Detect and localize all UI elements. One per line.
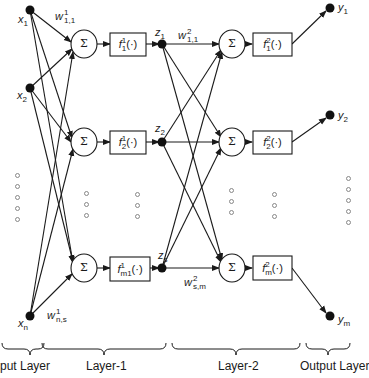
- activation-label-l1-2: f12(·): [110, 135, 146, 151]
- input-label-n: xn: [18, 318, 28, 330]
- hidden-label-1: z1: [155, 27, 165, 39]
- output-label-1: y1: [338, 2, 348, 14]
- layer1-connections: [30, 10, 73, 316]
- hidden-label-2: z2: [155, 123, 165, 135]
- activation-label-l2-2: f22(·): [253, 135, 292, 151]
- layer1-activation-ellipsis: [135, 192, 140, 225]
- sigma-l1-2: Σ: [74, 135, 94, 148]
- output-ellipsis: [346, 176, 351, 231]
- hidden-label-s: zs: [158, 250, 168, 262]
- sigma-l1-s: Σ: [74, 261, 94, 274]
- weight-label-l2-first: w21,1: [178, 28, 198, 44]
- activation-label-l1-1: f11(·): [110, 37, 146, 53]
- weight-label-l2-last: w2s,m: [184, 275, 206, 291]
- layer-label-output: Output Layer: [300, 359, 369, 373]
- output-node-2: [326, 111, 335, 120]
- layer2-connections: [162, 44, 222, 268]
- hidden-node-2: [158, 138, 167, 147]
- sigma-l2-m: Σ: [222, 261, 242, 274]
- input-ellipsis: [15, 173, 20, 228]
- sigma-l2-2: Σ: [222, 135, 242, 148]
- activation-label-l2-m: f2m(·): [253, 261, 292, 277]
- output-label-2: y2: [338, 110, 348, 122]
- sigma-l1-1: Σ: [74, 37, 94, 50]
- layer1-sum-ellipsis: [84, 191, 89, 224]
- output-label-m: ym: [338, 314, 350, 326]
- input-label-1: x1: [18, 14, 28, 26]
- layer2-activation-ellipsis: [272, 192, 277, 225]
- output-node-m: [326, 312, 335, 321]
- output-node-1: [326, 4, 335, 13]
- layer-braces: [2, 343, 350, 355]
- activation-label-l1-m1: f1m1(·): [110, 262, 150, 278]
- layer-label-input: Input Layer: [0, 359, 50, 373]
- input-label-2: x2: [17, 90, 27, 102]
- layer-label-layer2: Layer-2: [218, 359, 259, 373]
- weight-label-l1-first: w11,1: [55, 9, 75, 25]
- layer2-sum-ellipsis: [229, 188, 234, 221]
- hidden-node-s: [158, 264, 167, 273]
- activation-label-l2-1: f21(·): [253, 37, 292, 53]
- sigma-l2-1: Σ: [222, 37, 242, 50]
- weight-label-l1-last: w1n,s: [47, 308, 67, 324]
- layer-label-layer1: Layer-1: [86, 359, 127, 373]
